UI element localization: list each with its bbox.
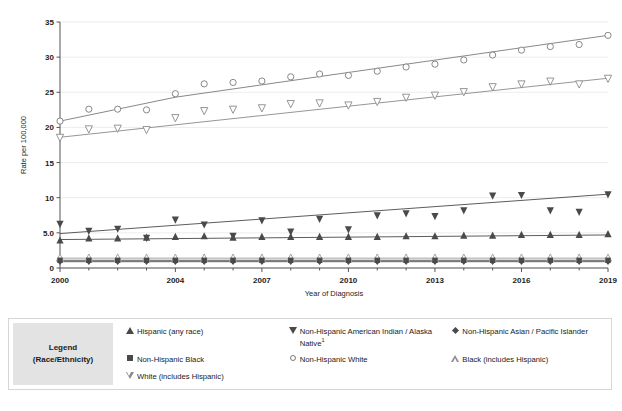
legend-item: Non-Hispanic American Indian / Alaska Na… [286, 326, 445, 351]
svg-text:35: 35 [45, 18, 54, 27]
svg-text:0: 0 [50, 264, 55, 273]
svg-text:2000: 2000 [51, 276, 69, 285]
svg-text:2010: 2010 [340, 276, 358, 285]
legend-title: Legend (Race/Ethnicity) [13, 323, 113, 385]
svg-text:10: 10 [45, 194, 54, 203]
legend-item-label: Black (includes Hispanic) [462, 354, 607, 365]
line-chart: 05.0101520253035200020042007201020132016… [0, 0, 622, 302]
svg-text:15: 15 [45, 159, 54, 168]
legend-item-label: Hispanic (any race) [137, 326, 282, 337]
svg-text:5.0: 5.0 [43, 229, 55, 238]
svg-text:2019: 2019 [599, 276, 617, 285]
legend-title-line2: (Race/Ethnicity) [33, 354, 93, 366]
legend-marker-triangle-up-filled-icon [123, 326, 137, 334]
footnote-strip [0, 398, 622, 411]
legend-marker-triangle-down-filled-icon [286, 326, 300, 334]
legend-item: Non-Hispanic White [286, 354, 445, 368]
data-markers [56, 32, 611, 265]
legend-item: Hispanic (any race) [123, 326, 282, 351]
legend-item: Non-Hispanic Asian / Pacific Islander [448, 326, 607, 351]
legend-item: White (includes Hispanic) [123, 371, 282, 385]
svg-text:30: 30 [45, 53, 54, 62]
svg-text:2016: 2016 [513, 276, 531, 285]
triangle-up-filled-icon [126, 327, 134, 334]
svg-text:25: 25 [45, 88, 54, 97]
legend-marker-triangle-down-open-icon [123, 371, 137, 379]
legend-marker-diamond-icon [448, 326, 462, 333]
circle-open-icon [290, 355, 296, 361]
legend-footnote-marker: 1 [321, 337, 324, 343]
svg-text:2013: 2013 [426, 276, 444, 285]
x-axis-title: Year of Diagnosis [305, 289, 364, 298]
axes [57, 22, 609, 272]
legend-item-label: Non-Hispanic Asian / Pacific Islander [462, 326, 607, 337]
legend-marker-square-icon [123, 354, 137, 361]
square-icon [127, 355, 133, 361]
legend-item-label: Non-Hispanic American Indian / Alaska Na… [300, 326, 445, 349]
legend-item: Black (includes Hispanic) [448, 354, 607, 368]
legend-title-line1: Legend [49, 342, 77, 354]
legend-item-label: Non-Hispanic White [300, 354, 445, 365]
triangle-down-filled-icon [289, 327, 297, 334]
legend-panel: Legend (Race/Ethnicity) Hispanic (any ra… [8, 318, 612, 390]
legend-marker-triangle-up-open-icon [448, 354, 462, 362]
legend-marker-circle-open-icon [286, 354, 300, 361]
gridlines [60, 22, 608, 268]
triangle-down-open-icon [126, 372, 134, 379]
svg-text:2007: 2007 [253, 276, 271, 285]
legend-item-label: White (includes Hispanic) [137, 371, 282, 382]
triangle-up-open-icon [451, 355, 459, 362]
chart-container: 05.0101520253035200020042007201020132016… [0, 0, 622, 302]
legend-item-label: Non-Hispanic Black [137, 354, 282, 365]
chart-page: 05.0101520253035200020042007201020132016… [0, 0, 622, 411]
svg-text:2004: 2004 [166, 276, 184, 285]
diamond-icon [452, 327, 459, 334]
legend-entries: Hispanic (any race)Non-Hispanic American… [113, 319, 611, 389]
tick-labels: 05.0101520253035200020042007201020132016… [43, 18, 618, 285]
trend-lines [60, 35, 608, 261]
svg-text:20: 20 [45, 123, 54, 132]
legend-item: Non-Hispanic Black [123, 354, 282, 368]
y-axis-title: Rate per 100,000 [19, 116, 28, 174]
